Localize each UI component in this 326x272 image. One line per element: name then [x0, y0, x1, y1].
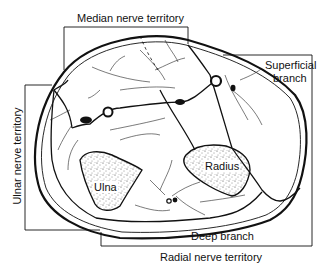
label-ulna: Ulna — [93, 181, 118, 193]
radial-artery — [211, 76, 221, 86]
label-median-nerve-territory: Median nerve territory — [77, 12, 184, 24]
label-radius: Radius — [204, 160, 240, 172]
median-nerve — [175, 99, 185, 105]
internal-septa — [51, 45, 300, 222]
ulnar-nerve — [80, 117, 92, 124]
diagram-drawing — [0, 0, 326, 272]
deep-branch-nerve — [173, 198, 178, 203]
label-superficial: Superficial — [265, 59, 316, 71]
label-branch: branch — [273, 72, 307, 84]
ulnar-artery — [104, 108, 113, 117]
label-deep-branch: Deep branch — [191, 230, 254, 242]
label-ulnar-nerve-territory: Ulnar nerve territory — [11, 91, 23, 221]
label-radial-nerve-territory: Radial nerve territory — [160, 251, 262, 263]
posterior-interosseous-artery — [167, 199, 171, 203]
superficial-radial-nerve — [231, 85, 236, 91]
forearm-cross-section-diagram: Median nerve territory Superficial branc… — [0, 0, 326, 272]
